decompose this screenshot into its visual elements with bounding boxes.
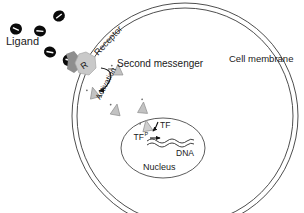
messenger-mid-left [108,103,122,116]
tf-label: TF [160,120,170,130]
cell-membrane-label: Cell membrane [229,53,293,64]
nucleus-label: Nucleus [143,162,176,172]
dna-strand-lower [147,143,194,147]
cell-signaling-diagram: R [0,0,304,213]
receptor-label: Receptor [92,24,124,58]
messenger-mid-right [138,98,149,113]
dna-group [147,139,194,147]
ligand-free-1 [9,22,23,35]
ligand-label: Ligand [6,35,39,47]
ligand-free-4 [43,45,57,59]
ligand-free-3 [51,8,67,23]
tf-phosphorylated-label: TF P [134,131,149,142]
tfp-superscript-label: P [145,131,149,137]
diagram-canvas: R [0,0,304,213]
dna-label: DNA [176,148,194,158]
tfp-base-label: TF [134,132,144,142]
second-messenger-label: Second messenger [117,58,204,69]
label-group: Ligand Receptor Second messenger Activat… [6,24,293,172]
dna-strand-upper [147,139,194,143]
activation-label: Activation [94,66,118,101]
tf-activation-arrow [153,122,158,131]
receptor-group: R [66,51,96,75]
